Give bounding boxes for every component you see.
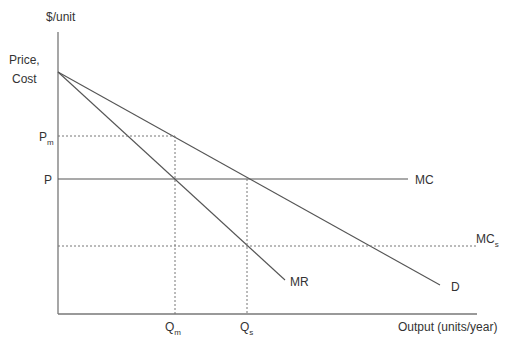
p-label: P	[44, 173, 52, 187]
d-label: D	[451, 280, 460, 294]
y-axis-title-line2: Cost	[12, 72, 37, 86]
qm-label: Qm	[165, 320, 181, 337]
mr-label: MR	[290, 275, 309, 289]
marginal-revenue-curve	[58, 72, 285, 280]
mc-label: MC	[415, 173, 434, 187]
y-axis-unit-label: $/unit	[46, 10, 76, 24]
x-axis-label: Output (units/year)	[398, 320, 497, 334]
pm-label: Pm	[39, 130, 54, 147]
economics-diagram: $/unit Price, Cost Pm P MC MCs MR D Qm Q…	[0, 0, 509, 344]
qs-label: Qs	[240, 320, 253, 337]
y-axis-title-line1: Price,	[9, 53, 40, 67]
mcs-label: MCs	[476, 232, 499, 249]
